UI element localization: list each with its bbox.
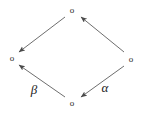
arrow-bottom-to-left <box>19 65 65 97</box>
vertex-left: o <box>10 54 15 63</box>
vertex-top: o <box>70 6 75 15</box>
arrow-right-to-top <box>81 17 124 52</box>
edge-label-alpha: α <box>102 81 109 94</box>
edge-label-beta: β <box>31 83 37 96</box>
vertex-right: o <box>129 55 134 64</box>
arrow-top-to-left <box>19 17 65 52</box>
vertex-bottom: o <box>70 99 75 108</box>
commutative-diagram: o o o o β α <box>0 0 144 116</box>
